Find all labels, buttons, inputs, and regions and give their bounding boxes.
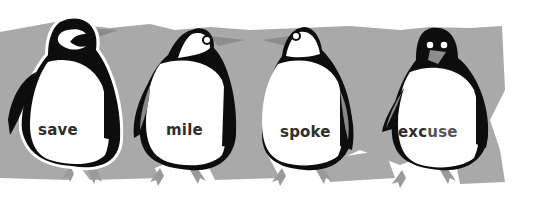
word-part: use [427, 123, 457, 141]
feet [272, 168, 332, 186]
feet [150, 168, 206, 186]
feet [392, 169, 456, 188]
word-part: oke [300, 123, 331, 141]
word-label-save: save [38, 121, 78, 139]
word-part: sp [280, 123, 300, 141]
word-part: ave [47, 121, 78, 139]
word-label-spoke: spoke [280, 123, 331, 141]
penguin-illustration [0, 0, 533, 203]
word-part: s [38, 121, 47, 139]
word-label-mile: mile [166, 121, 203, 139]
word-label-excuse: excuse [398, 123, 458, 141]
word-part: exc [398, 123, 427, 141]
word-part: mile [166, 121, 203, 139]
